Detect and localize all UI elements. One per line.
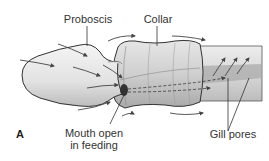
- collar: [112, 40, 203, 108]
- trunk: [200, 46, 262, 101]
- label-mouth-line1: Mouth open: [63, 127, 125, 139]
- label-mouth: Mouth open in feeding: [63, 127, 125, 151]
- label-proboscis: Proboscis: [60, 13, 116, 25]
- label-collar: Collar: [138, 13, 178, 25]
- proboscis: [22, 44, 122, 106]
- label-gill-pores: Gill pores: [203, 128, 263, 140]
- label-mouth-line2: in feeding: [63, 139, 125, 151]
- panel-label: A: [16, 128, 24, 140]
- mouth: [120, 84, 128, 96]
